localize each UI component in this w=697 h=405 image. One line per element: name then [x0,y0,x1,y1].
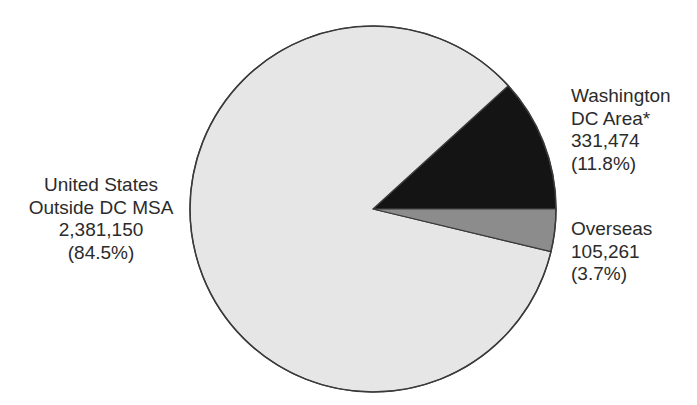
label-overseas-percent: (3.7%) [571,263,652,286]
label-overseas: Overseas 105,261 (3.7%) [571,218,652,286]
label-us-line2: Outside DC MSA [14,197,188,220]
label-us-value: 2,381,150 [14,219,188,242]
label-united-states-outside-dc: United States Outside DC MSA 2,381,150 (… [14,174,188,264]
label-dc-percent: (11.8%) [571,153,671,176]
label-dc-value: 331,474 [571,130,671,153]
label-washington-dc-area: Washington DC Area* 331,474 (11.8%) [571,85,671,175]
label-us-line1: United States [14,174,188,197]
pie-slices [190,26,556,392]
label-dc-line2: DC Area* [571,108,671,131]
label-overseas-line1: Overseas [571,218,652,241]
label-overseas-value: 105,261 [571,241,652,264]
label-dc-line1: Washington [571,85,671,108]
label-us-percent: (84.5%) [14,242,188,265]
